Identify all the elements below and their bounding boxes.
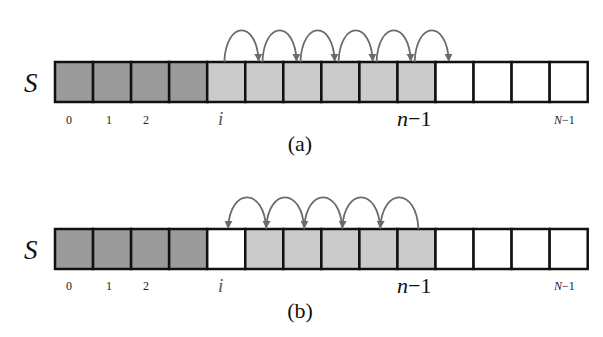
array-cell: [359, 229, 397, 269]
index-label-1: 1: [106, 279, 112, 293]
index-label-n-minus-1: n−1: [397, 273, 431, 298]
index-label-0: 0: [66, 279, 72, 293]
array-cell: [245, 229, 283, 269]
array-cell: [550, 229, 588, 269]
shift-arrow-icon: [339, 30, 373, 62]
shift-left-arrows: [228, 197, 418, 229]
array-cell: [93, 62, 131, 102]
array-cell: [550, 62, 588, 102]
array-cell: [359, 62, 397, 102]
array-cell: [512, 62, 550, 102]
array-cell: [283, 62, 321, 102]
array-shift-diagram: S 0 1 2 i n−1 N−1 (a) S 0 1 2 i n−1 N−1 …: [0, 0, 603, 337]
index-label-0: 0: [66, 113, 72, 127]
array-cell: [436, 62, 474, 102]
index-label-1: 1: [106, 113, 112, 127]
array-cell: [436, 229, 474, 269]
index-label-i: i: [218, 108, 223, 129]
array-cells: [55, 229, 588, 269]
panel-caption-b: (b): [287, 298, 313, 323]
index-label-N-minus-1: N−1: [553, 279, 575, 293]
array-cell: [55, 229, 93, 269]
array-name-label: S: [24, 68, 38, 98]
array-cell: [474, 62, 512, 102]
index-label-n-minus-1: n−1: [397, 106, 431, 131]
shift-right-arrows: [224, 30, 448, 62]
array-cell: [207, 229, 245, 269]
array-cell: [321, 229, 359, 269]
array-cells: [55, 62, 588, 102]
panel-a: S 0 1 2 i n−1 N−1 (a): [24, 30, 588, 156]
array-name-label: S: [24, 235, 38, 265]
shift-arrow-icon: [224, 30, 258, 62]
array-cell: [131, 229, 169, 269]
shift-arrow-icon: [228, 197, 266, 229]
shift-arrow-icon: [262, 30, 296, 62]
panel-b: S 0 1 2 i n−1 N−1 (b): [24, 197, 588, 323]
shift-arrow-icon: [300, 30, 334, 62]
array-cell: [397, 229, 435, 269]
index-label-2: 2: [143, 113, 149, 127]
shift-arrow-icon: [342, 197, 380, 229]
index-label-N-minus-1: N−1: [553, 113, 575, 127]
array-cell: [512, 229, 550, 269]
array-cell: [169, 229, 207, 269]
array-cell: [93, 229, 131, 269]
array-cell: [474, 229, 512, 269]
panel-caption-a: (a): [288, 131, 312, 156]
array-cell: [245, 62, 283, 102]
shift-arrow-icon: [380, 197, 418, 229]
shift-arrow-icon: [304, 197, 342, 229]
array-cell: [169, 62, 207, 102]
array-cell: [283, 229, 321, 269]
index-label-i: i: [218, 275, 223, 296]
shift-arrow-icon: [415, 30, 449, 62]
array-cell: [55, 62, 93, 102]
array-cell: [397, 62, 435, 102]
shift-arrow-icon: [377, 30, 411, 62]
shift-arrow-icon: [266, 197, 304, 229]
index-label-2: 2: [143, 279, 149, 293]
array-cell: [321, 62, 359, 102]
array-cell: [207, 62, 245, 102]
array-cell: [131, 62, 169, 102]
